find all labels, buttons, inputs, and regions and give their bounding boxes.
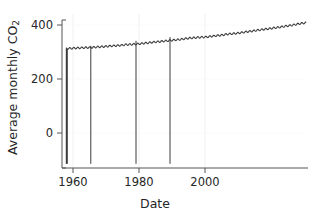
plot-area: 400 200 0 1960 1980 2000 xyxy=(0,0,310,222)
y-tick-label-400: 400 xyxy=(31,18,53,32)
y-tick-labels: 400 200 0 xyxy=(31,18,53,140)
y-tick-label-0: 0 xyxy=(46,126,53,140)
x-tick-labels: 1960 1980 2000 xyxy=(58,175,219,189)
x-axis-label: Date xyxy=(0,196,310,211)
co2-series xyxy=(66,22,306,164)
y-axis-ticks xyxy=(57,25,62,133)
y-tick-label-200: 200 xyxy=(31,72,53,86)
x-tick-label-1980: 1980 xyxy=(124,175,153,189)
x-axis-ticks xyxy=(73,168,205,173)
y-axis-spine xyxy=(62,20,66,168)
co2-line xyxy=(66,22,306,49)
x-tick-label-1960: 1960 xyxy=(58,175,87,189)
grid-lines xyxy=(62,14,306,168)
x-tick-label-2000: 2000 xyxy=(190,175,219,189)
co2-chart-figure: Average monthly CO2 400 xyxy=(0,0,310,222)
